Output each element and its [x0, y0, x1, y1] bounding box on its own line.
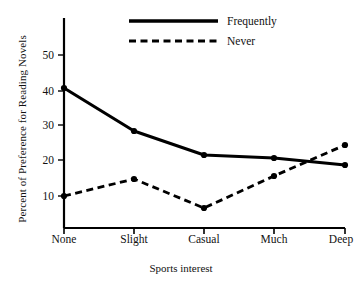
- chart-figure: 50 40 30 20 10 None Slight Casual Much D…: [0, 0, 362, 287]
- legend-label-never: Never: [227, 35, 255, 47]
- y-axis-title: Percent of Preference for Reading Novels: [13, 14, 31, 244]
- series-markers-frequently: [61, 85, 348, 168]
- x-tick-label-much: Much: [261, 233, 288, 245]
- x-tick-label-none: None: [52, 233, 77, 245]
- x-tick-label-deep: Deep: [329, 233, 353, 245]
- y-axis-title-text: Percent of Preference for Reading Novels: [16, 35, 28, 223]
- x-axis-title: Sports interest: [0, 262, 362, 274]
- x-tick-label-slight: Slight: [120, 233, 147, 245]
- legend-label-frequently: Frequently: [227, 15, 277, 27]
- x-tick-label-casual: Casual: [188, 233, 219, 245]
